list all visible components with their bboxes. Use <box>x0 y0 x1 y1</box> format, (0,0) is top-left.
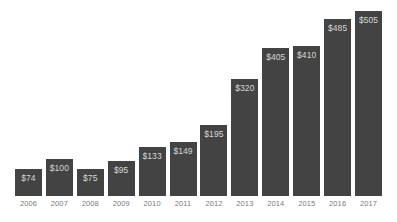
bar-chart: $74$100$75$95$133$149$195$320$405$410$48… <box>0 0 397 222</box>
bar-2011[interactable]: $149 <box>170 142 197 196</box>
bar-2010[interactable]: $133 <box>139 147 166 196</box>
bar-2015[interactable]: $410 <box>293 46 320 196</box>
bar-2007[interactable]: $100 <box>46 159 73 196</box>
bar-value-label: $505 <box>359 16 378 25</box>
x-axis-tick-2014: 2014 <box>260 199 291 209</box>
x-axis-tick-2009: 2009 <box>106 199 137 209</box>
x-axis-tick-2015: 2015 <box>291 199 322 209</box>
bar-value-label: $485 <box>328 24 347 33</box>
bar-value-label: $410 <box>297 51 316 60</box>
x-axis-tick-2013: 2013 <box>229 199 260 209</box>
plot-area: $74$100$75$95$133$149$195$320$405$410$48… <box>13 6 384 196</box>
bar-2006[interactable]: $74 <box>15 169 42 196</box>
bar-value-label: $95 <box>114 166 128 175</box>
x-axis-tick-2017: 2017 <box>353 199 384 209</box>
bar-2013[interactable]: $320 <box>231 79 258 196</box>
bar-rect <box>355 11 382 196</box>
bar-2014[interactable]: $405 <box>262 48 289 196</box>
bar-2008[interactable]: $75 <box>77 169 104 196</box>
x-axis-tick-2007: 2007 <box>44 199 75 209</box>
bar-value-label: $195 <box>204 130 223 139</box>
x-axis-tick-labels: 2006200720082009201020112012201320142015… <box>13 199 384 213</box>
bar-rect <box>262 48 289 196</box>
bar-2012[interactable]: $195 <box>200 125 227 196</box>
bar-value-label: $149 <box>173 147 192 156</box>
bar-2009[interactable]: $95 <box>108 161 135 196</box>
x-axis-tick-2008: 2008 <box>75 199 106 209</box>
bar-value-label: $74 <box>21 174 35 183</box>
bar-value-label: $405 <box>266 53 285 62</box>
bar-value-label: $75 <box>83 174 97 183</box>
bar-2016[interactable]: $485 <box>324 19 351 196</box>
x-axis-tick-2006: 2006 <box>13 199 44 209</box>
x-axis-tick-2016: 2016 <box>322 199 353 209</box>
bar-value-label: $133 <box>142 152 161 161</box>
x-axis-tick-2010: 2010 <box>137 199 168 209</box>
bar-rect <box>293 46 320 196</box>
x-axis-tick-2012: 2012 <box>199 199 230 209</box>
bar-rect <box>324 19 351 196</box>
x-axis-tick-2011: 2011 <box>168 199 199 209</box>
bar-rect <box>231 79 258 196</box>
bar-value-label: $320 <box>235 84 254 93</box>
bar-value-label: $100 <box>50 164 69 173</box>
bar-2017[interactable]: $505 <box>355 11 382 196</box>
